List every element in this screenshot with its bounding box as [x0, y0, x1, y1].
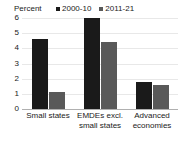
x-axis-category-label-line: small states [74, 121, 126, 131]
bar-group [136, 18, 169, 109]
legend-item-2000-10[interactable]: 2000-10 [56, 4, 91, 13]
legend-swatch-icon [99, 7, 103, 11]
y-axis-tick-label: 5 [15, 29, 19, 37]
x-axis-category-label-line: Advanced [126, 111, 178, 121]
legend-label: 2000-10 [62, 4, 91, 13]
y-axis-tick-label: 4 [15, 44, 19, 52]
legend-swatch-icon [56, 7, 60, 11]
bar[interactable] [49, 92, 65, 109]
bar[interactable] [32, 39, 48, 109]
x-axis-category-label: Advancedeconomies [126, 111, 178, 130]
legend-label: 2011-21 [105, 4, 134, 13]
bar-chart: Percent 2000-10 2011-21 6543210 Small st… [0, 0, 182, 144]
bar-group [32, 18, 65, 109]
chart-legend: 2000-10 2011-21 [56, 4, 134, 13]
y-axis-tick-label: 3 [15, 60, 19, 68]
bar[interactable] [153, 85, 169, 109]
bar-groups [22, 18, 178, 109]
bar-group [84, 18, 117, 109]
y-axis-tick-label: 2 [15, 75, 19, 83]
y-axis-tick-label: 6 [15, 14, 19, 22]
bar[interactable] [136, 82, 152, 109]
bar[interactable] [84, 18, 100, 109]
x-axis-category-label: Small states [22, 111, 74, 121]
bar[interactable] [101, 42, 117, 109]
x-axis-category-label-line: economies [126, 121, 178, 131]
y-axis-tick-label: 0 [15, 105, 19, 113]
x-axis-baseline: 0 [22, 109, 178, 110]
plot-area: 6543210 [22, 18, 178, 109]
x-axis-category-labels: Small statesEMDEs excl.small statesAdvan… [22, 111, 178, 130]
y-axis-unit-label: Percent [14, 4, 42, 13]
x-axis-category-label-line: EMDEs excl. [74, 111, 126, 121]
x-axis-category-label: EMDEs excl.small states [74, 111, 126, 130]
legend-item-2011-21[interactable]: 2011-21 [99, 4, 134, 13]
x-axis-category-label-line: Small states [22, 111, 74, 121]
y-axis-tick-label: 1 [15, 90, 19, 98]
